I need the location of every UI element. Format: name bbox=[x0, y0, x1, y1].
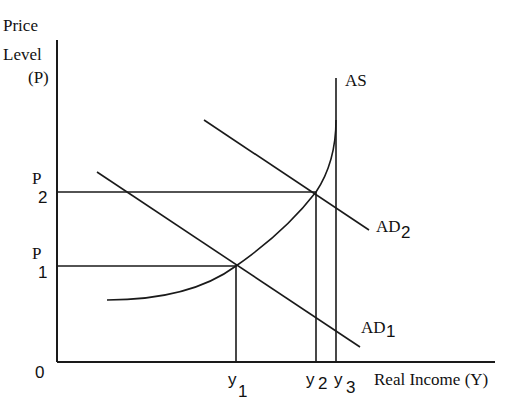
p2-label-base: P bbox=[32, 169, 41, 188]
p1-label-sub: 1 bbox=[38, 263, 47, 282]
y3-label-base: y bbox=[334, 370, 343, 389]
y2-label-sub: 2 bbox=[318, 374, 327, 393]
y-axis-label-line2: Level bbox=[3, 45, 42, 64]
ad-as-diagram: Price Level (P) 0 P 2 P 1 AS AD 1 AD 2 y… bbox=[0, 0, 514, 415]
y1-label-sub: 1 bbox=[238, 382, 247, 401]
ad1-label-sub: 1 bbox=[386, 322, 395, 341]
as-label: AS bbox=[345, 71, 367, 90]
ad1-label-base: AD bbox=[361, 318, 386, 337]
p1-label-base: P bbox=[32, 244, 41, 263]
y1-label-base: y bbox=[228, 370, 237, 389]
y-axis-label-line1: Price bbox=[3, 16, 38, 35]
p2-label-sub: 2 bbox=[38, 188, 47, 207]
y2-label-base: y bbox=[306, 370, 315, 389]
y3-label-sub: 3 bbox=[346, 378, 355, 397]
ad2-label-base: AD bbox=[376, 217, 401, 236]
y-axis-label-line3: (P) bbox=[28, 68, 49, 87]
origin-label: 0 bbox=[35, 363, 44, 382]
ad2-label-sub: 2 bbox=[401, 223, 410, 242]
ad2-curve bbox=[204, 120, 369, 230]
x-axis-label: Real Income (Y) bbox=[374, 370, 488, 389]
